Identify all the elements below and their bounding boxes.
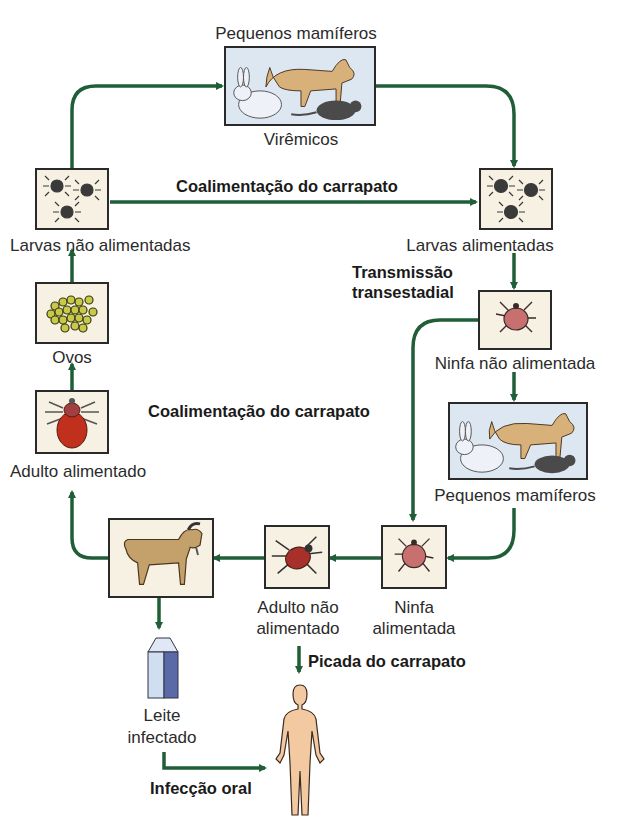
tick-larvae-icon — [37, 170, 107, 228]
nymph-tick-icon — [480, 292, 550, 348]
label-adulto-nao-alimentado-2: alimentado — [240, 619, 356, 639]
fed-adult-box — [35, 390, 109, 454]
nymph-tick-icon — [383, 527, 445, 587]
tick-transmission-cycle-diagram: Pequenos mamíferos Virêmicos Larvas não … — [0, 0, 636, 825]
adult-tick-icon — [266, 527, 328, 587]
fed-nymph-box — [381, 525, 447, 589]
label-leite: Leite — [110, 706, 214, 726]
label-adulto-nao-alimentado-1: Adulto não — [240, 598, 356, 618]
label-ninfa-alimentada-2: alimentada — [364, 619, 464, 639]
engorged-tick-icon — [37, 392, 107, 452]
goat-box — [108, 518, 214, 598]
milk-carton — [146, 636, 180, 700]
milk-carton-icon — [146, 636, 180, 700]
human-figure — [270, 683, 330, 819]
small-mammals-icon — [450, 404, 586, 478]
unfed-nymph-box — [478, 290, 552, 350]
small-mammals-top-box — [224, 46, 376, 126]
unfed-larvae-box — [35, 168, 109, 230]
tick-eggs-icon — [37, 284, 107, 342]
small-mammals-icon — [226, 48, 374, 124]
edge-label-coalimentacao-top: Coalimentação do carrapato — [176, 176, 398, 196]
unfed-adult-box — [264, 525, 330, 589]
goat-icon — [110, 520, 212, 596]
fed-larvae-box — [479, 168, 553, 230]
eggs-box — [35, 282, 109, 344]
label-ovos: Ovos — [35, 348, 109, 368]
edge-label-transmissao-line2: transestadial — [352, 282, 454, 302]
label-ninfa-nao-alimentada: Ninfa não alimentada — [420, 354, 610, 374]
label-pequenos-mamiferos-top: Pequenos mamíferos — [196, 24, 396, 44]
label-ninfa-alimentada-1: Ninfa — [364, 598, 464, 618]
edge-label-coalimentacao-mid: Coalimentação do carrapato — [148, 401, 370, 421]
edge-label-infeccao-oral: Infecção oral — [150, 778, 252, 798]
label-larvas-nao-alimentadas: Larvas não alimentadas — [10, 236, 230, 256]
label-adulto-alimentado: Adulto alimentado — [10, 462, 210, 482]
label-larvas-alimentadas: Larvas alimentadas — [390, 236, 570, 256]
edge-label-picada: Picada do carrapato — [308, 651, 466, 671]
label-infectado: infectado — [110, 728, 214, 748]
edge-label-transmissao-line1: Transmissão — [352, 262, 453, 282]
human-figure-icon — [270, 683, 330, 819]
small-mammals-right-box — [448, 402, 588, 480]
label-viremicos: Virêmicos — [246, 130, 356, 150]
tick-larvae-icon — [481, 170, 551, 228]
label-pequenos-mamiferos-right: Pequenos mamíferos — [420, 486, 610, 506]
